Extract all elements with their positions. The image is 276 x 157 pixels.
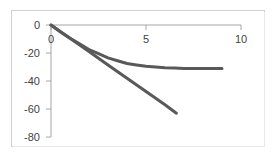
- y-tick-label-minus80: -80: [8, 132, 40, 143]
- y-tick-label-0: 0: [8, 20, 40, 31]
- y-tick-label-minus40: -40: [8, 76, 40, 87]
- series-line-asymptotic-curve: [51, 25, 222, 68]
- chart-container: 0 -20 -40 -60 -80 0 5 10: [0, 0, 276, 157]
- y-tick-label-minus60: -60: [8, 104, 40, 115]
- chart-canvas: [0, 0, 276, 157]
- x-tick-label-5: 5: [134, 34, 158, 45]
- x-tick-label-0: 0: [39, 34, 63, 45]
- x-tick-label-10: 10: [229, 34, 253, 45]
- y-tick-label-minus20: -20: [8, 48, 40, 59]
